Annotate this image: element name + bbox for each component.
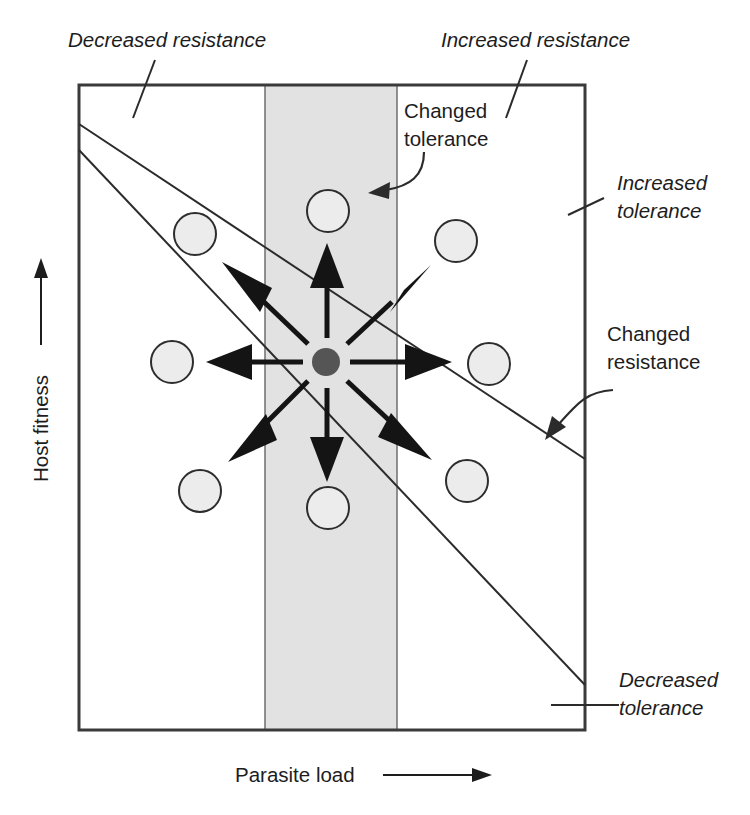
- leader-increased-resistance: [506, 60, 527, 118]
- x-axis-arrow: [383, 768, 492, 782]
- label-decreased-tolerance-line2: tolerance: [619, 696, 703, 719]
- phenotype-circle-up-left: [174, 213, 216, 255]
- phenotype-circle-down-right: [446, 460, 488, 502]
- label-increased-resistance: Increased resistance: [441, 28, 630, 51]
- phenotype-circle-left: [151, 341, 193, 383]
- phenotype-circle-down-left: [179, 470, 221, 512]
- label-increased-tolerance-line1: Increased: [617, 171, 708, 194]
- label-changed-tolerance-line2: tolerance: [404, 127, 488, 150]
- y-axis-arrow: [34, 258, 48, 345]
- trade-off-diagram: Decreased resistance Increased resistanc…: [0, 0, 750, 815]
- label-increased-tolerance: Increased tolerance: [617, 171, 708, 222]
- label-changed-resistance-line1: Changed: [607, 322, 690, 345]
- label-decreased-resistance: Decreased resistance: [68, 28, 266, 51]
- x-axis-label: Parasite load: [235, 763, 355, 786]
- label-changed-resistance: Changed resistance: [607, 322, 700, 373]
- label-changed-tolerance: Changed tolerance: [404, 99, 488, 150]
- label-increased-tolerance-line2: tolerance: [617, 199, 701, 222]
- label-changed-resistance-line2: resistance: [607, 350, 700, 373]
- leader-decreased-resistance: [133, 60, 155, 118]
- label-decreased-tolerance: Decreased tolerance: [619, 668, 719, 719]
- phenotype-circle-down: [307, 487, 349, 529]
- label-decreased-tolerance-line1: Decreased: [619, 668, 719, 691]
- phenotype-circle-right: [468, 343, 510, 385]
- figure-root: Decreased resistance Increased resistanc…: [0, 0, 750, 815]
- current-phenotype-dot: [312, 348, 340, 376]
- label-changed-tolerance-line1: Changed: [404, 99, 487, 122]
- leader-changed-resistance: [545, 390, 613, 440]
- phenotype-circle-up: [307, 190, 349, 232]
- y-axis-label: Host fitness: [29, 375, 52, 482]
- phenotype-circle-up-right: [435, 220, 477, 262]
